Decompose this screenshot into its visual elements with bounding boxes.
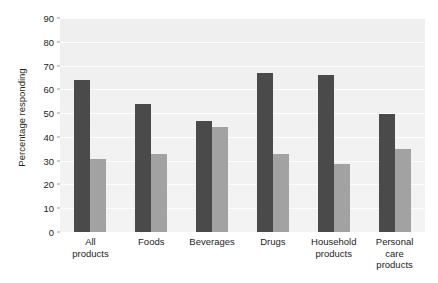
bar-groups [60,18,425,232]
bar-group [379,18,411,232]
plot-area: 0102030405060708090 [60,18,425,232]
x-tick-label: Personal care products [358,236,432,271]
y-tick-label: 80 [43,36,54,47]
bar-group [257,18,289,232]
bar [212,127,228,232]
y-tick-label: 50 [43,108,54,119]
bar [379,114,395,232]
bar [318,75,334,232]
bar-group [196,18,228,232]
bar-group [135,18,167,232]
y-tick-label: 60 [43,84,54,95]
bar [257,73,273,232]
y-axis-title: Percentage responding [16,33,27,203]
bar [90,159,106,232]
bar [151,154,167,232]
bar [74,80,90,232]
y-tick-label: 70 [43,60,54,71]
y-tick-label: 20 [43,179,54,190]
x-axis-labels: All productsFoodsBeveragesDrugsHousehold… [60,236,425,282]
y-tick-label: 90 [43,13,54,24]
y-tick-label: 10 [43,203,54,214]
bar-chart: Percentage responding Believe the qualit… [0,0,438,283]
bar [135,104,151,232]
y-tick-label: 40 [43,131,54,142]
gridline [60,232,425,233]
bar-group [74,18,106,232]
y-tick-label: 30 [43,155,54,166]
bar [196,121,212,232]
bar [395,149,411,232]
bar [273,154,289,232]
bar [334,164,350,232]
bar-group [318,18,350,232]
